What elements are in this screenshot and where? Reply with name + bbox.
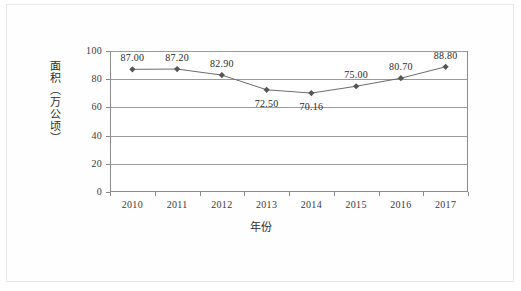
x-tick-label-2011: 2011 bbox=[154, 199, 200, 210]
data-point-marker-2014 bbox=[308, 90, 314, 96]
data-label-2017: 88.80 bbox=[421, 50, 471, 61]
x-tick-mark-3 bbox=[244, 192, 245, 196]
x-tick-mark-4 bbox=[289, 192, 290, 196]
data-point-marker-2017 bbox=[443, 64, 449, 70]
x-tick-mark-2 bbox=[200, 192, 201, 196]
line-chart-figure: 面积（万公顷） 020406080100 87.0087.2082.9072.5… bbox=[0, 0, 521, 291]
x-tick-mark-6 bbox=[379, 192, 380, 196]
data-label-2012: 82.90 bbox=[197, 58, 247, 69]
data-point-marker-2015 bbox=[353, 83, 359, 89]
data-point-marker-2010 bbox=[129, 66, 135, 72]
x-tick-label-2012: 2012 bbox=[199, 199, 245, 210]
data-label-2015: 75.00 bbox=[331, 69, 381, 80]
data-label-2010: 87.00 bbox=[107, 52, 157, 63]
x-tick-label-2010: 2010 bbox=[109, 199, 155, 210]
data-point-marker-2013 bbox=[264, 87, 270, 93]
data-point-marker-2012 bbox=[219, 72, 225, 78]
data-label-2011: 87.20 bbox=[152, 52, 202, 63]
x-tick-label-2015: 2015 bbox=[333, 199, 379, 210]
x-tick-mark-5 bbox=[334, 192, 335, 196]
series-line-area bbox=[0, 0, 521, 291]
x-tick-mark-8 bbox=[468, 192, 469, 196]
x-tick-label-2014: 2014 bbox=[288, 199, 334, 210]
x-tick-label-2013: 2013 bbox=[244, 199, 290, 210]
x-tick-mark-1 bbox=[155, 192, 156, 196]
x-tick-mark-0 bbox=[110, 192, 111, 196]
x-tick-mark-7 bbox=[423, 192, 424, 196]
data-label-2016: 80.70 bbox=[376, 61, 426, 72]
data-label-2013: 72.50 bbox=[242, 98, 292, 109]
data-point-marker-2016 bbox=[398, 75, 404, 81]
x-axis-title: 年份 bbox=[0, 221, 521, 233]
data-label-2014: 70.16 bbox=[286, 101, 336, 112]
data-point-marker-2011 bbox=[174, 66, 180, 72]
x-tick-label-2017: 2017 bbox=[423, 199, 469, 210]
x-tick-label-2016: 2016 bbox=[378, 199, 424, 210]
